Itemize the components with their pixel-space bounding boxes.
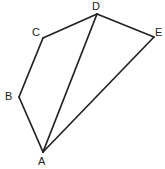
polygon-drawing (0, 0, 165, 169)
geometry-figure: ABCDE (0, 0, 165, 169)
vertex-label-b: B (5, 91, 12, 102)
vertex-label-e: E (155, 27, 162, 38)
vertex-label-c: C (32, 27, 40, 38)
edge-de (97, 14, 154, 37)
vertex-label-d: D (92, 1, 100, 12)
vertex-label-a: A (38, 156, 45, 167)
edge-bc (19, 38, 43, 97)
edge-ea (43, 37, 154, 152)
edge-ab (19, 97, 43, 152)
